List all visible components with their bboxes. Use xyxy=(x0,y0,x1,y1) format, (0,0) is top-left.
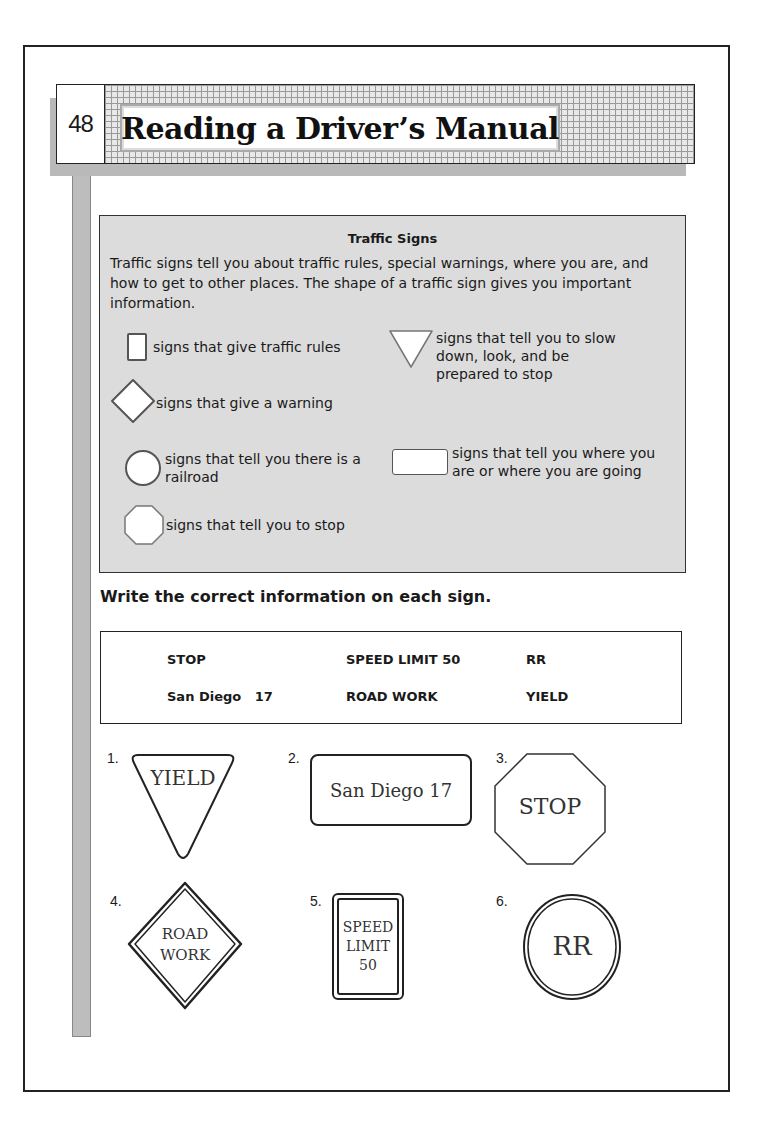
page-number-text: 48 xyxy=(68,110,93,138)
word-bank-item: ROAD WORK xyxy=(346,689,438,704)
sign-1-yield[interactable]: YIELD xyxy=(128,752,238,862)
legend-label: signs that tell you to stop xyxy=(166,516,345,534)
sign-4-warning[interactable]: ROAD WORK xyxy=(126,880,244,1015)
exercise-instruction: Write the correct information on each si… xyxy=(100,587,491,606)
sign-1-number: 1. xyxy=(107,750,119,766)
sign-4-text: ROAD WORK xyxy=(126,924,244,966)
legend-label: signs that tell you to slow down, look, … xyxy=(436,329,636,383)
sign-6-text: RR xyxy=(522,931,622,961)
word-bank-item: STOP xyxy=(167,652,206,667)
info-box-paragraph: Traffic signs tell you about traffic rul… xyxy=(110,253,677,313)
page-title: Reading a Driver’s Manual xyxy=(121,111,559,146)
sign-2-text: San Diego 17 xyxy=(330,780,452,801)
sign-5-inner-border: SPEED LIMIT 50 xyxy=(337,898,399,995)
sign-4-line: WORK xyxy=(126,945,244,966)
legend-item-warning: signs that give a warning xyxy=(110,378,333,424)
legend-label: signs that give a warning xyxy=(156,394,333,412)
legend-item-railroad: signs that tell you there is a railroad xyxy=(125,450,365,486)
sign-3-stop[interactable]: STOP xyxy=(493,752,607,866)
sign-2-number: 2. xyxy=(288,750,300,766)
page-number: 48 xyxy=(56,84,105,164)
word-bank-item: RR xyxy=(526,652,546,667)
sign-5-line: 50 xyxy=(343,956,394,975)
legend-label: signs that tell you there is a railroad xyxy=(165,450,365,486)
legend-item-stop: signs that tell you to stop xyxy=(124,505,345,545)
sign-6-number: 6. xyxy=(496,893,508,909)
traffic-signs-info-box: Traffic Signs Traffic signs tell you abo… xyxy=(99,215,686,573)
legend-item-traffic-rules: signs that give traffic rules xyxy=(127,333,341,361)
legend-item-yield: signs that tell you to slow down, look, … xyxy=(388,329,678,383)
legend-label: signs that tell you where you are or whe… xyxy=(452,444,667,480)
sign-5-number: 5. xyxy=(310,893,322,909)
legend-item-guide: signs that tell you where you are or whe… xyxy=(392,444,682,480)
sign-1-text: YIELD xyxy=(128,766,238,790)
word-bank: STOP SPEED LIMIT 50 RR San Diego 17 ROAD… xyxy=(100,631,682,724)
diamond-icon xyxy=(110,378,156,424)
sign-5-text: SPEED LIMIT 50 xyxy=(343,918,394,975)
sign-3-text: STOP xyxy=(493,794,607,819)
side-bar xyxy=(72,164,91,1037)
sign-6-railroad[interactable]: RR xyxy=(522,893,622,1001)
word-bank-item: YIELD xyxy=(526,689,568,704)
title-plate: Reading a Driver’s Manual xyxy=(120,104,560,152)
sign-5-line: SPEED xyxy=(343,918,394,937)
sign-2-guide[interactable]: San Diego 17 xyxy=(310,754,472,826)
horizontal-rectangle-icon xyxy=(392,449,448,475)
sign-4-number: 4. xyxy=(110,893,122,909)
info-box-title: Traffic Signs xyxy=(100,231,685,246)
word-bank-item: SPEED LIMIT 50 xyxy=(346,652,460,667)
vertical-rectangle-icon xyxy=(127,333,147,361)
circle-icon xyxy=(125,450,161,486)
inverted-triangle-icon xyxy=(388,329,434,369)
sign-4-line: ROAD xyxy=(126,924,244,945)
sign-5-line: LIMIT xyxy=(343,937,394,956)
word-bank-item: San Diego 17 xyxy=(167,689,273,704)
sign-5-regulatory[interactable]: SPEED LIMIT 50 xyxy=(332,893,404,1000)
legend-label: signs that give traffic rules xyxy=(153,338,341,356)
octagon-icon xyxy=(124,505,164,545)
